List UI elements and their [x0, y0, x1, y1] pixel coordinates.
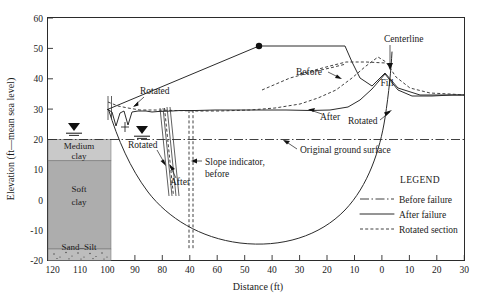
annotation-after-center-label: After [320, 112, 341, 122]
annotation-rotated-upper-label: Rotated [140, 86, 170, 96]
fill-embankment-outline [108, 46, 465, 110]
x-tick-label: 120 [45, 265, 60, 275]
annotation-rotated-left: Rotated [128, 140, 166, 166]
y-tick-label: 50 [34, 44, 44, 54]
soil-label-medium-clay-2: clay [72, 151, 87, 161]
annotation-original-ground-surface-label: Original ground surface [300, 145, 391, 155]
y-tick-label: 40 [34, 74, 44, 84]
crest-point-marker [256, 43, 262, 49]
annotation-before-label: Before [296, 67, 322, 77]
x-axis-title: Distance (ft) [233, 281, 283, 293]
annotation-after-left-label: After [170, 177, 191, 187]
annotation-rotated-left-label: Rotated [128, 140, 158, 150]
soil-label-soft-clay: Soft [71, 184, 87, 194]
y-tick-label: -10 [30, 226, 43, 236]
x-tick-label: 90 [130, 265, 140, 275]
water-table-left [66, 123, 82, 135]
x-tick-label: 10 [350, 265, 360, 275]
y-tick-label: 30 [34, 105, 44, 115]
x-tick-label: 60 [212, 265, 222, 275]
x-tick-label: 40 [185, 265, 195, 275]
soil-profile-column: Medium clay Soft clay Sand–Silt [48, 140, 111, 261]
soil-label-sand-silt: Sand–Silt [61, 242, 97, 252]
annotation-original-ground-surface: Original ground surface [283, 140, 391, 155]
x-tick-label: 20 [432, 265, 442, 275]
annotation-centerline: Centerline [384, 34, 424, 70]
x-tick-label: 50 [240, 265, 250, 275]
annotation-slope-indicator: Slope indicator, before [191, 157, 265, 179]
water-table-center [121, 122, 150, 138]
y-tick-label: -20 [30, 256, 43, 266]
legend-title: LEGEND [400, 175, 440, 185]
annotation-slope-indicator-label-2: before [205, 169, 229, 179]
legend-label-after-failure: After failure [399, 210, 446, 220]
annotation-slope-indicator-label: Slope indicator, [205, 157, 265, 167]
legend-label-before-failure: Before failure [399, 195, 452, 205]
annotation-centerline-label: Centerline [384, 34, 424, 44]
legend: LEGEND Before failure After failure Rota… [360, 175, 458, 235]
y-axis-title: Elevation (ft—mean sea level) [5, 78, 17, 200]
rotated-section-upper [108, 57, 464, 111]
y-tick-label: 10 [34, 165, 44, 175]
slope-failure-cross-section-figure: 60 50 40 30 20 10 0 -10 -20 Elevation (f… [0, 0, 490, 305]
y-tick-label: 0 [38, 196, 43, 206]
x-tick-label: 20 [322, 265, 332, 275]
y-axis-tick-labels: 60 50 40 30 20 10 0 -10 -20 [30, 14, 43, 267]
y-tick-label: 60 [34, 14, 44, 24]
annotation-before: Before [296, 67, 342, 79]
x-tick-label: 40 [267, 265, 277, 275]
y-tick-label: 20 [34, 135, 44, 145]
x-axis-ticks [53, 255, 465, 261]
x-tick-label: 30 [295, 265, 305, 275]
annotation-rotated-right-label: Rotated [348, 116, 378, 126]
x-tick-label: 110 [73, 265, 87, 275]
legend-label-rotated-section: Rotated section [399, 225, 458, 235]
x-tick-label: 100 [100, 265, 115, 275]
annotation-after-left: After [169, 164, 191, 187]
x-tick-label: 10 [405, 265, 415, 275]
x-tick-label: 0 [380, 265, 385, 275]
soil-label-soft-clay-2: clay [72, 197, 87, 207]
annotation-fill-label: Fill [380, 78, 394, 88]
soil-label-medium-clay: Medium [64, 141, 95, 151]
x-tick-label: 80 [158, 265, 168, 275]
x-axis-tick-labels: 120 110 100 90 80 40 60 50 40 30 20 10 0… [45, 265, 469, 275]
x-tick-label: 30 [460, 265, 470, 275]
